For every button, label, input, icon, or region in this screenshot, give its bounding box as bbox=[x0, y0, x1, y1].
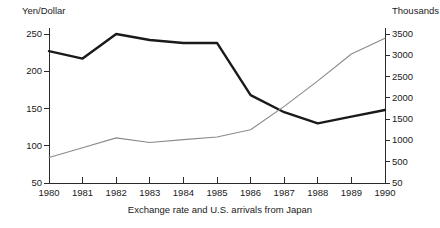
chart-caption: Exchange rate and U.S. arrivals from Jap… bbox=[0, 204, 440, 216]
exchange-rate-line bbox=[49, 34, 385, 123]
arrivals-line bbox=[49, 38, 385, 157]
chart-container: Yen/Dollar Thousands 5010015020025050500… bbox=[0, 0, 440, 228]
plot-area bbox=[0, 0, 440, 228]
